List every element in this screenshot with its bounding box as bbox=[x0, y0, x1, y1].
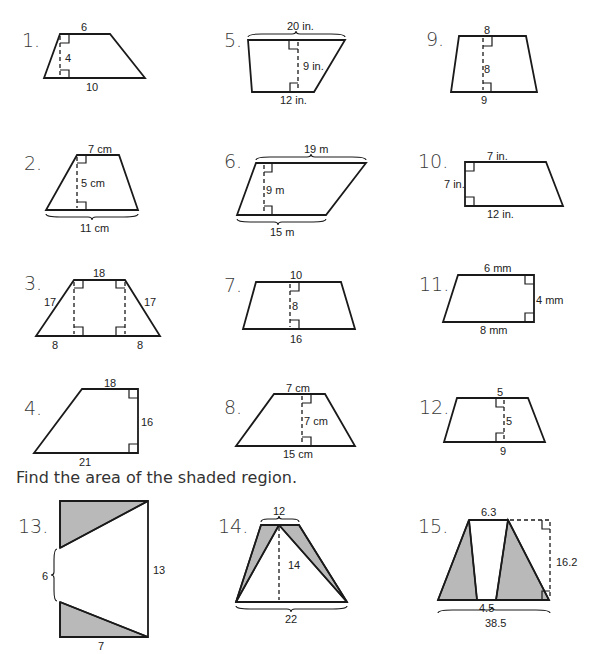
problem-number-2: 2. bbox=[24, 152, 42, 174]
figure-15-shaded-trapezoid bbox=[438, 520, 550, 613]
label-6-top: 19 m bbox=[304, 143, 328, 155]
problem-number-1: 1. bbox=[22, 29, 40, 51]
label-15-bottom: 38.5 bbox=[485, 617, 506, 629]
label-3-top: 18 bbox=[93, 267, 105, 279]
label-1-height: 4 bbox=[65, 52, 71, 64]
label-7-height: 8 bbox=[292, 300, 298, 312]
label-8-height: 7 cm bbox=[304, 415, 328, 427]
label-12-height: 5 bbox=[506, 415, 512, 427]
problem-number-15: 15. bbox=[418, 515, 448, 537]
problem-number-6: 6. bbox=[224, 150, 242, 172]
label-10-height: 7 in. bbox=[444, 178, 465, 190]
figure-1-trapezoid bbox=[44, 34, 145, 78]
label-6-bottom: 15 m bbox=[270, 226, 294, 238]
label-9-height: 8 bbox=[484, 63, 490, 75]
label-11-height: 4 mm bbox=[536, 294, 564, 306]
figure-8-trapezoid bbox=[236, 394, 355, 446]
section-instruction: Find the area of the shaded region. bbox=[16, 468, 297, 487]
label-11-bottom: 8 mm bbox=[480, 324, 508, 336]
label-7-bottom: 16 bbox=[290, 333, 302, 345]
label-3-bottom-left: 8 bbox=[52, 339, 58, 351]
label-15-gap: 4.5 bbox=[479, 602, 494, 614]
figure-10-right-trapezoid bbox=[465, 162, 563, 206]
label-5-top: 20 in. bbox=[287, 20, 314, 32]
label-1-top: 6 bbox=[81, 21, 87, 33]
label-15-top: 6.3 bbox=[481, 506, 496, 518]
label-10-bottom: 12 in. bbox=[487, 208, 514, 220]
label-12-bottom: 9 bbox=[500, 445, 506, 457]
label-6-height: 9 m bbox=[266, 184, 284, 196]
figure-9-trapezoid bbox=[451, 36, 537, 92]
figure-12-trapezoid bbox=[444, 398, 545, 442]
label-2-bottom: 11 cm bbox=[80, 222, 109, 234]
label-8-bottom: 15 cm bbox=[283, 448, 313, 460]
problem-number-3: 3. bbox=[24, 272, 42, 294]
label-4-bottom: 21 bbox=[79, 456, 91, 468]
label-14-bottom: 22 bbox=[285, 613, 297, 625]
label-2-height: 5 cm bbox=[81, 177, 105, 189]
label-12-top: 5 bbox=[497, 386, 503, 398]
problem-number-4: 4. bbox=[24, 397, 42, 419]
label-4-top: 18 bbox=[104, 377, 116, 389]
label-3-right-side: 17 bbox=[144, 296, 156, 308]
label-14-height: 14 bbox=[288, 559, 300, 571]
problem-number-14: 14. bbox=[218, 515, 248, 537]
problem-number-7: 7. bbox=[224, 274, 242, 296]
label-1-bottom: 10 bbox=[86, 81, 98, 93]
label-8-top: 7 cm bbox=[286, 382, 310, 394]
label-13-height: 13 bbox=[153, 564, 165, 576]
problem-number-5: 5. bbox=[224, 29, 242, 51]
label-5-height: 9 in. bbox=[303, 60, 324, 72]
label-13-bottom: 7 bbox=[98, 640, 104, 652]
problem-number-11: 11. bbox=[419, 273, 449, 295]
label-3-bottom-right: 8 bbox=[137, 339, 143, 351]
label-14-top: 12 bbox=[273, 505, 285, 517]
label-11-top: 6 mm bbox=[484, 262, 512, 274]
problem-number-10: 10. bbox=[418, 150, 448, 172]
label-7-top: 10 bbox=[290, 269, 302, 281]
label-2-top: 7 cm bbox=[88, 143, 112, 155]
figure-3-trapezoid bbox=[36, 280, 160, 336]
figure-13-shaded-rectangle bbox=[51, 501, 148, 637]
figure-4-trapezoid bbox=[34, 389, 138, 453]
label-9-bottom: 9 bbox=[481, 94, 487, 106]
problem-number-9: 9. bbox=[426, 28, 444, 50]
label-9-top: 8 bbox=[484, 24, 490, 36]
problem-number-12: 12. bbox=[419, 396, 449, 418]
label-4-height: 16 bbox=[141, 416, 153, 428]
problem-number-13: 13. bbox=[18, 515, 48, 537]
figure-7-trapezoid bbox=[243, 282, 355, 329]
problem-number-8: 8. bbox=[224, 396, 242, 418]
figure-11-right-trapezoid bbox=[443, 275, 534, 322]
label-3-left-side: 17 bbox=[44, 296, 56, 308]
label-15-height: 16.2 bbox=[556, 556, 577, 568]
figure-6-parallelogram bbox=[237, 154, 366, 225]
label-5-bottom: 12 in. bbox=[280, 94, 307, 106]
label-10-top: 7 in. bbox=[487, 150, 508, 162]
label-13-gap: 6 bbox=[42, 570, 48, 582]
figure-5-trapezoid bbox=[248, 31, 345, 92]
